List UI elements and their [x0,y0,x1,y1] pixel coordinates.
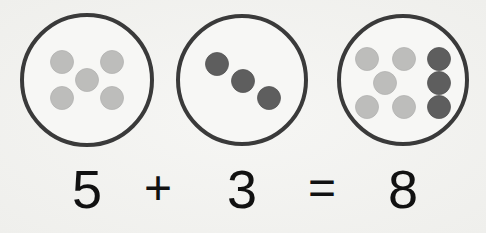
dark-counter-dot [258,87,281,110]
addition-illustration: 5 + 3 = 8 [0,0,486,233]
light-counter-dot [393,48,416,71]
equation-addend-1: 5 [72,159,102,219]
light-counter-dot [101,87,124,110]
counters-figure: 5 + 3 = 8 [0,0,486,233]
equation-equals-sign: = [308,161,336,214]
light-counter-dot [101,51,124,74]
counter-groups [22,15,467,145]
light-counter-dot [76,69,99,92]
light-counter-dot [393,96,416,119]
dark-counter-dot [428,72,451,95]
second-addend-set [178,16,306,144]
light-counter-dot [356,48,379,71]
dark-counter-dot [428,96,451,119]
light-counter-dot [356,96,379,119]
light-counter-dot [51,51,74,74]
sum-set [339,16,467,144]
dark-counter-dot [232,70,255,93]
dark-counter-dot [206,53,229,76]
light-counter-dot [374,72,397,95]
first-addend-set [22,15,152,145]
equation-sum: 8 [388,159,418,219]
light-counter-dot [51,87,74,110]
equation-plus-sign: + [144,161,172,214]
dark-counter-dot [428,48,451,71]
equation-addend-2: 3 [227,159,257,219]
